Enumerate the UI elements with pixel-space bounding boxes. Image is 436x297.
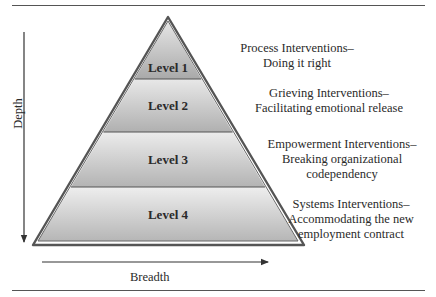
breadth-axis-label: Breadth <box>130 270 170 285</box>
annotation-level-2-title: Grieving Interventions– <box>240 86 418 101</box>
annotation-level-4-title: Systems Interventions– <box>270 197 432 212</box>
level-3-label: Level 3 <box>148 152 189 167</box>
annotation-level-1-subtitle: Doing it right <box>222 56 372 71</box>
annotation-level-4: Systems Interventions– Accommodating the… <box>270 197 432 242</box>
annotation-level-3-subtitle-2: codependency <box>252 167 432 182</box>
level-2-label: Level 2 <box>148 98 188 113</box>
annotation-level-3-title: Empowerment Interventions– <box>252 137 432 152</box>
annotation-level-3-subtitle-1: Breaking organizational <box>252 152 432 167</box>
annotation-level-1: Process Interventions– Doing it right <box>222 41 372 71</box>
annotation-level-4-subtitle-1: Accommodating the new <box>270 212 432 227</box>
level-1-label: Level 1 <box>148 60 188 75</box>
annotation-level-1-title: Process Interventions– <box>222 41 372 56</box>
level-4-label: Level 4 <box>148 207 189 222</box>
annotation-level-2-subtitle: Facilitating emotional release <box>240 101 418 116</box>
bottom-rule <box>12 290 425 291</box>
annotation-level-4-subtitle-2: employment contract <box>270 227 432 242</box>
depth-axis-label: Depth <box>11 94 26 134</box>
annotation-level-2: Grieving Interventions– Facilitating emo… <box>240 86 418 116</box>
annotation-level-3: Empowerment Interventions– Breaking orga… <box>252 137 432 182</box>
